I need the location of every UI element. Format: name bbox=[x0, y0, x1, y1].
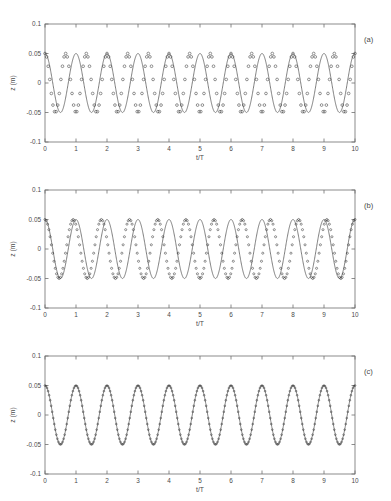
numerical-markers bbox=[44, 385, 356, 446]
x-tick-label: 1 bbox=[74, 145, 78, 152]
y-axis-title: z (m) bbox=[9, 75, 17, 90]
panel-c-plot: 012345678910-0.1-0.0500.050.1t/Tz (m)(c) bbox=[0, 332, 391, 501]
y-axis-title: z (m) bbox=[9, 407, 17, 422]
y-tick-label: -0.1 bbox=[30, 138, 41, 145]
numerical-markers bbox=[44, 218, 356, 279]
y-tick-label: 0 bbox=[37, 245, 41, 252]
x-tick-label: 10 bbox=[351, 311, 359, 318]
x-tick-label: 10 bbox=[351, 477, 359, 484]
panel-a-axes: 012345678910-0.1-0.0500.050.1t/Tz (m)(a) bbox=[9, 20, 374, 161]
y-tick-label: 0.05 bbox=[29, 382, 42, 389]
y-axis-title: z (m) bbox=[9, 241, 17, 256]
numerical-markers bbox=[44, 52, 357, 113]
reference-curve bbox=[45, 220, 355, 279]
x-tick-label: 3 bbox=[136, 145, 140, 152]
panel-tag: (c) bbox=[364, 367, 373, 376]
reference-curve bbox=[45, 54, 355, 113]
x-tick-label: 6 bbox=[229, 145, 233, 152]
y-tick-label: 0.05 bbox=[29, 216, 42, 223]
y-tick-label: 0 bbox=[37, 411, 41, 418]
y-tick-label: 0.1 bbox=[32, 186, 41, 193]
y-tick-label: 0.05 bbox=[29, 50, 42, 57]
x-tick-label: 2 bbox=[105, 145, 109, 152]
panel-c-axes: 012345678910-0.1-0.0500.050.1t/Tz (m)(c) bbox=[9, 352, 373, 493]
y-tick-label: -0.1 bbox=[30, 470, 41, 477]
x-tick-label: 8 bbox=[291, 477, 295, 484]
x-tick-label: 2 bbox=[105, 311, 109, 318]
x-axis-title: t/T bbox=[196, 154, 204, 161]
y-tick-label: -0.05 bbox=[26, 109, 41, 116]
x-tick-label: 10 bbox=[351, 145, 359, 152]
x-tick-label: 8 bbox=[291, 311, 295, 318]
x-tick-label: 4 bbox=[167, 145, 171, 152]
x-tick-label: 3 bbox=[136, 311, 140, 318]
panel-c: 012345678910-0.1-0.0500.050.1t/Tz (m)(c) bbox=[0, 332, 391, 501]
y-tick-label: -0.05 bbox=[26, 441, 41, 448]
panel-a: 012345678910-0.1-0.0500.050.1t/Tz (m)(a) bbox=[0, 0, 391, 170]
y-tick-label: 0.1 bbox=[32, 20, 41, 27]
x-tick-label: 7 bbox=[260, 311, 264, 318]
x-tick-label: 3 bbox=[136, 477, 140, 484]
x-tick-label: 6 bbox=[229, 477, 233, 484]
panel-b-plot: 012345678910-0.1-0.0500.050.1t/Tz (m)(b) bbox=[0, 166, 391, 334]
x-tick-label: 0 bbox=[43, 311, 47, 318]
panel-tag: (b) bbox=[364, 201, 374, 210]
x-tick-label: 7 bbox=[260, 145, 264, 152]
x-tick-label: 1 bbox=[74, 311, 78, 318]
x-tick-label: 8 bbox=[291, 145, 295, 152]
x-tick-label: 7 bbox=[260, 477, 264, 484]
reference-curve bbox=[45, 386, 355, 445]
panel-b: 012345678910-0.1-0.0500.050.1t/Tz (m)(b) bbox=[0, 166, 391, 334]
x-tick-label: 0 bbox=[43, 145, 47, 152]
panel-tag: (a) bbox=[364, 35, 374, 44]
x-tick-label: 9 bbox=[322, 145, 326, 152]
x-axis-title: t/T bbox=[196, 320, 204, 327]
y-tick-label: 0 bbox=[37, 79, 41, 86]
x-tick-label: 4 bbox=[167, 477, 171, 484]
x-tick-label: 6 bbox=[229, 311, 233, 318]
panel-b-axes: 012345678910-0.1-0.0500.050.1t/Tz (m)(b) bbox=[9, 186, 374, 327]
y-tick-label: -0.1 bbox=[30, 304, 41, 311]
y-tick-label: -0.05 bbox=[26, 275, 41, 282]
x-tick-label: 9 bbox=[322, 477, 326, 484]
x-tick-label: 5 bbox=[198, 477, 202, 484]
x-tick-label: 5 bbox=[198, 145, 202, 152]
x-tick-label: 5 bbox=[198, 311, 202, 318]
x-axis-title: t/T bbox=[196, 486, 204, 493]
x-tick-label: 2 bbox=[105, 477, 109, 484]
x-tick-label: 9 bbox=[322, 311, 326, 318]
x-tick-label: 1 bbox=[74, 477, 78, 484]
x-tick-label: 0 bbox=[43, 477, 47, 484]
figure-three-panel-oscillation: 012345678910-0.1-0.0500.050.1t/Tz (m)(a)… bbox=[0, 0, 391, 501]
x-tick-label: 4 bbox=[167, 311, 171, 318]
panel-a-plot: 012345678910-0.1-0.0500.050.1t/Tz (m)(a) bbox=[0, 0, 391, 170]
y-tick-label: 0.1 bbox=[32, 352, 41, 359]
